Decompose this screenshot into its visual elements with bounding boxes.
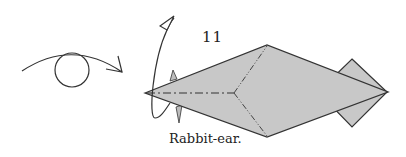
flap-spike-top [170, 70, 177, 81]
step-caption: Rabbit-ear. [169, 131, 242, 146]
eye-icon [22, 53, 122, 87]
origami-diagram: 11 Rabbit-ear. [0, 0, 406, 157]
step-number: 11 [202, 28, 223, 46]
flap-spike-bottom [176, 105, 182, 123]
